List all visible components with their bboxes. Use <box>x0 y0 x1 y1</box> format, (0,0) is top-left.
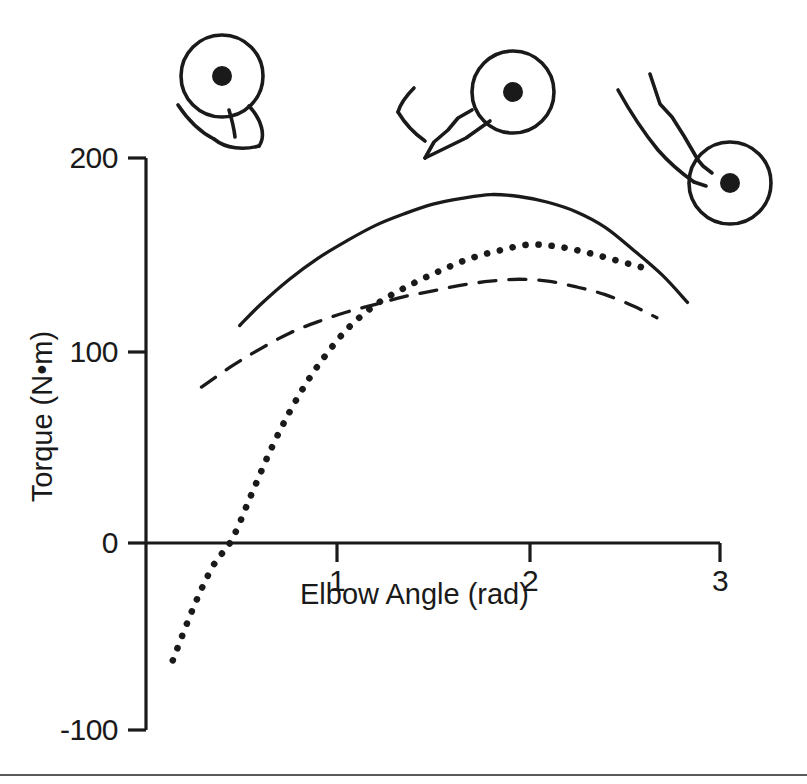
x-tick-label-3: 3 <box>700 564 740 598</box>
x-axis-title: Elbow Angle (rad) <box>300 578 529 611</box>
arm-posture-flexed <box>178 35 263 148</box>
shoulder-joint-dot-3 <box>720 173 740 193</box>
forearm-limb-3 <box>698 160 712 173</box>
y-axis-title: Torque (N•m) <box>26 292 59 542</box>
y-tick-label-100: 100 <box>0 335 118 369</box>
arm-posture-extended <box>618 74 771 224</box>
torque-angle-plot <box>0 0 807 784</box>
elbow-torque-angle-figure: 200 100 0 -100 1 2 3 Elbow Angle (rad) T… <box>0 0 807 784</box>
forearm-limb-2 <box>425 110 472 158</box>
hand-lower-limb-2 <box>398 112 425 141</box>
y-tick-label--100: -100 <box>0 713 118 747</box>
forearm-limb-1 <box>249 106 262 146</box>
hand-limb-2 <box>398 88 414 112</box>
upper-arm-limb-1 <box>178 105 214 139</box>
y-tick-label-200: 200 <box>0 141 118 175</box>
arm-posture-mid-range <box>398 51 554 158</box>
y-tick-label-0: 0 <box>0 526 118 560</box>
hand-limb-1 <box>214 139 259 148</box>
page-bottom-rule <box>0 774 807 776</box>
tick-marks-group <box>128 158 720 730</box>
hand-tip-limb-3 <box>694 182 706 186</box>
shoulder-joint-dot-2 <box>503 82 523 102</box>
shoulder-joint-dot-1 <box>212 66 232 86</box>
axes-group <box>146 158 720 730</box>
